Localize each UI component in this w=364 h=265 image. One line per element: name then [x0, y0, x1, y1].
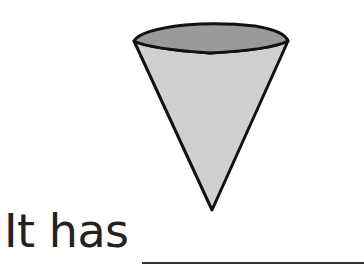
cone-body — [134, 41, 288, 210]
prompt-text: It has — [4, 208, 129, 254]
answer-blank-line[interactable] — [142, 262, 364, 264]
cone-top-face — [134, 24, 288, 53]
